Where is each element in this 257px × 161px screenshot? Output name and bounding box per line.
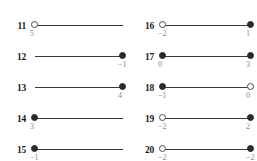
number-line-track	[163, 25, 251, 26]
interval-row[interactable]: 20−2−2	[128, 137, 256, 161]
endpoint-value-left: −2	[158, 122, 167, 131]
closed-endpoint-left-icon[interactable]	[159, 52, 166, 59]
number-line[interactable]: −22	[159, 106, 256, 137]
number-line-track	[35, 87, 123, 88]
number-line[interactable]: −1	[31, 44, 128, 75]
number-line[interactable]: 5	[31, 13, 128, 44]
interval-index-label: 11	[6, 21, 26, 31]
interval-row[interactable]: 19−22	[128, 106, 256, 137]
interval-index-label: 18	[134, 83, 154, 93]
number-line[interactable]: 03	[159, 44, 256, 75]
endpoint-value-left: 3	[30, 122, 34, 131]
number-line[interactable]: 3	[31, 106, 128, 137]
interval-row[interactable]: 134	[0, 75, 128, 106]
interval-column-left: 11512−113414315−1	[0, 0, 128, 161]
number-line-track	[35, 149, 123, 150]
interval-index-label: 15	[6, 145, 26, 155]
closed-endpoint-right-icon[interactable]	[119, 52, 126, 59]
endpoint-value-right: 3	[246, 60, 250, 69]
interval-index-label: 19	[134, 114, 154, 124]
open-endpoint-left-icon[interactable]	[159, 21, 166, 28]
number-line-track	[163, 56, 251, 57]
number-line[interactable]: −21	[159, 13, 256, 44]
interval-row[interactable]: 143	[0, 106, 128, 137]
endpoint-value-right: 1	[246, 29, 250, 38]
closed-endpoint-right-icon[interactable]	[247, 21, 254, 28]
interval-index-label: 17	[134, 52, 154, 62]
endpoint-value-left: −1	[30, 153, 39, 161]
number-line[interactable]: −10	[159, 75, 256, 106]
interval-index-label: 14	[6, 114, 26, 124]
endpoint-value-left: 5	[30, 29, 34, 38]
number-line-track	[163, 87, 251, 88]
interval-row[interactable]: 12−1	[0, 44, 128, 75]
number-line[interactable]: 4	[31, 75, 128, 106]
closed-endpoint-left-icon[interactable]	[159, 83, 166, 90]
closed-endpoint-right-icon[interactable]	[247, 145, 254, 152]
endpoint-value-right: −1	[118, 60, 127, 69]
interval-index-label: 13	[6, 83, 26, 93]
interval-row[interactable]: 15−1	[0, 137, 128, 161]
interval-index-label: 20	[134, 145, 154, 155]
interval-index-label: 12	[6, 52, 26, 62]
closed-endpoint-right-icon[interactable]	[119, 83, 126, 90]
number-line-track	[35, 56, 123, 57]
endpoint-value-right: 4	[118, 91, 122, 100]
closed-endpoint-left-icon[interactable]	[31, 114, 38, 121]
endpoint-value-right: 2	[246, 122, 250, 131]
open-endpoint-left-icon[interactable]	[159, 145, 166, 152]
interval-column-right: 16−21170318−1019−2220−2−2	[128, 0, 256, 161]
endpoint-value-left: −2	[158, 29, 167, 38]
number-line-track	[35, 118, 123, 119]
endpoint-value-left: −2	[158, 153, 167, 161]
open-endpoint-left-icon[interactable]	[159, 114, 166, 121]
number-line[interactable]: −1	[31, 137, 128, 161]
interval-row[interactable]: 1703	[128, 44, 256, 75]
endpoint-value-left: −1	[158, 91, 167, 100]
closed-endpoint-right-icon[interactable]	[247, 52, 254, 59]
open-endpoint-left-icon[interactable]	[31, 21, 38, 28]
number-line-track	[35, 25, 123, 26]
interval-row[interactable]: 16−21	[128, 13, 256, 44]
closed-endpoint-left-icon[interactable]	[31, 145, 38, 152]
endpoint-value-right: 0	[246, 91, 250, 100]
number-line[interactable]: −2−2	[159, 137, 256, 161]
interval-row[interactable]: 115	[0, 13, 128, 44]
endpoint-value-right: −2	[246, 153, 255, 161]
worksheet-canvas: 11512−113414315−1 16−21170318−1019−2220−…	[0, 0, 257, 161]
interval-row[interactable]: 18−10	[128, 75, 256, 106]
endpoint-value-left: 0	[158, 60, 162, 69]
number-line-track	[163, 118, 251, 119]
number-line-track	[163, 149, 251, 150]
closed-endpoint-right-icon[interactable]	[247, 114, 254, 121]
interval-index-label: 16	[134, 21, 154, 31]
open-endpoint-right-icon[interactable]	[247, 83, 254, 90]
